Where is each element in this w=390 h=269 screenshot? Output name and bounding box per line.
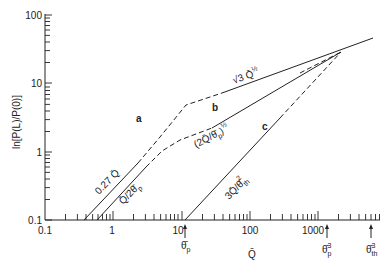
curve-label-b: b xyxy=(212,102,218,113)
y-ticks xyxy=(45,15,52,220)
x-tick-labels: 0.1 1 10 100 1000 xyxy=(38,225,325,236)
annotation-thetath-cubed: θ̄th3 xyxy=(366,224,378,257)
curve-a-solid-high xyxy=(222,38,373,93)
x-tick-10: 10 xyxy=(172,225,184,236)
y-tick-10: 10 xyxy=(31,78,43,89)
svg-text:0.27 Q̄: 0.27 Q̄ xyxy=(92,167,121,197)
x-axis-title: Q̄ xyxy=(248,248,256,260)
arrow-up-icon xyxy=(183,224,187,229)
x-ticks xyxy=(66,211,380,220)
chart: 0.1 1 10 100 0.1 1 10 100 1000 Q̄ ln[P(L… xyxy=(0,0,390,269)
svg-text:θ̄p3: θ̄p3 xyxy=(322,242,332,258)
arrow-up-icon xyxy=(325,224,329,229)
curve-label-c: c xyxy=(262,121,268,132)
arrow-up-icon xyxy=(369,224,373,229)
curve-label-a: a xyxy=(136,113,142,124)
y-tick-100: 100 xyxy=(25,10,42,21)
svg-text:√3 Q̄½: √3 Q̄½ xyxy=(230,64,260,86)
y-axis-title: ln[P(L)/P(0)] xyxy=(11,95,22,149)
curve-c-dashed xyxy=(280,52,341,118)
svg-text:θ̄th3: θ̄th3 xyxy=(366,242,378,257)
segment-label-2q-over-thetap: (2Q̄/θ̄p)½ xyxy=(191,120,232,152)
curve-a-dashed xyxy=(138,93,222,163)
segment-label-027q: 0.27 Q̄ xyxy=(92,167,121,197)
y-tick-labels: 0.1 1 10 100 xyxy=(25,10,42,226)
y-tick-1: 1 xyxy=(36,147,42,158)
x-tick-1: 1 xyxy=(109,225,115,236)
segment-label-sqrt3q: √3 Q̄½ xyxy=(230,64,260,86)
svg-text:θ̄p: θ̄p xyxy=(181,240,191,254)
x-tick-1000: 1000 xyxy=(302,225,325,236)
svg-text:Q̄/2θ̄p: Q̄/2θ̄p xyxy=(116,180,144,209)
segment-label-q-over-2thetap: Q̄/2θ̄p xyxy=(116,180,144,209)
x-tick-0.1: 0.1 xyxy=(38,225,52,236)
x-tick-100: 100 xyxy=(242,225,259,236)
svg-text:(2Q̄/θ̄p)½: (2Q̄/θ̄p)½ xyxy=(191,120,232,152)
